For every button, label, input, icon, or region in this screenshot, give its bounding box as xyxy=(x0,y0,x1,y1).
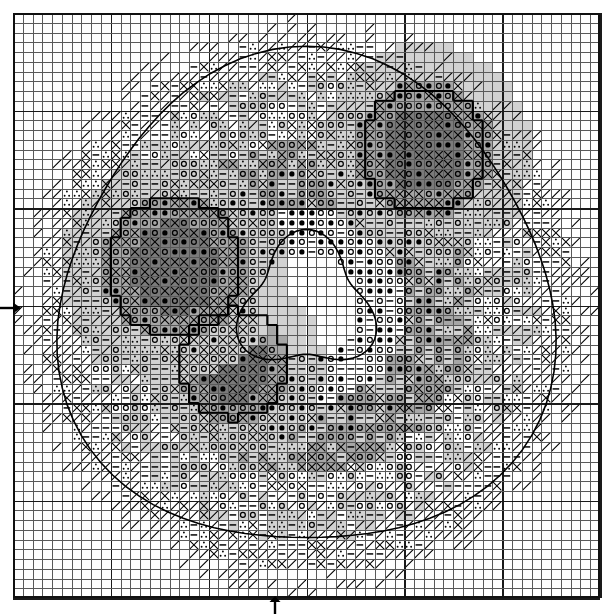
grid-line-horizontal xyxy=(13,237,600,238)
dash-symbol xyxy=(150,354,160,364)
pattern-cell xyxy=(150,335,160,345)
pattern-cell xyxy=(189,374,199,384)
open-circle-symbol xyxy=(424,286,434,296)
three-dot-symbol xyxy=(91,159,101,169)
pattern-cell xyxy=(385,189,395,199)
cross-symbol xyxy=(258,462,268,472)
pattern-cell xyxy=(365,228,375,238)
pattern-cell xyxy=(81,198,91,208)
filled-circle-symbol xyxy=(453,140,463,150)
slash-symbol xyxy=(228,559,238,569)
cross-symbol xyxy=(228,276,238,286)
pattern-cell xyxy=(541,179,551,189)
pattern-cell xyxy=(355,189,365,199)
dash-symbol xyxy=(150,384,160,394)
dash-symbol xyxy=(512,335,522,345)
pattern-cell xyxy=(130,413,140,423)
open-circle-symbol xyxy=(258,267,268,277)
pattern-cell xyxy=(434,364,444,374)
cross-symbol xyxy=(130,247,140,257)
pattern-cell xyxy=(199,393,209,403)
open-circle-symbol xyxy=(375,267,385,277)
three-dot-symbol xyxy=(277,442,287,452)
dash-symbol xyxy=(287,530,297,540)
pattern-cell xyxy=(238,374,248,384)
pattern-cell xyxy=(463,315,473,325)
pattern-cell xyxy=(512,452,522,462)
pattern-cell xyxy=(160,120,170,130)
filled-circle-symbol xyxy=(414,374,424,384)
pattern-cell xyxy=(512,384,522,394)
cross-symbol xyxy=(551,228,561,238)
pattern-cell xyxy=(140,364,150,374)
pattern-cell xyxy=(179,101,189,111)
pattern-cell xyxy=(52,345,62,355)
pattern-grid[interactable] xyxy=(13,13,600,598)
pattern-cell xyxy=(580,325,590,335)
slash-symbol xyxy=(170,530,180,540)
slash-symbol xyxy=(443,72,453,82)
pattern-cell xyxy=(33,228,43,238)
pattern-cell xyxy=(443,179,453,189)
open-circle-symbol xyxy=(355,198,365,208)
pattern-cell xyxy=(492,159,502,169)
dash-symbol xyxy=(101,423,111,433)
pattern-cell xyxy=(453,101,463,111)
pattern-cell xyxy=(150,169,160,179)
dash-symbol xyxy=(395,520,405,530)
dash-symbol xyxy=(72,393,82,403)
filled-circle-symbol xyxy=(140,315,150,325)
pattern-cell xyxy=(443,52,453,62)
dash-symbol xyxy=(443,510,453,520)
cross-symbol xyxy=(228,247,238,257)
pattern-cell xyxy=(258,471,268,481)
pattern-cell xyxy=(561,315,571,325)
pattern-cell xyxy=(23,345,33,355)
slash-symbol xyxy=(277,33,287,43)
pattern-cell xyxy=(316,130,326,140)
pattern-cell xyxy=(483,393,493,403)
grid-line-horizontal xyxy=(13,432,600,433)
pattern-cell xyxy=(238,364,248,374)
open-circle-symbol xyxy=(443,442,453,452)
pattern-cell xyxy=(434,374,444,384)
pattern-cell xyxy=(346,452,356,462)
open-circle-symbol xyxy=(258,130,268,140)
slash-symbol xyxy=(473,81,483,91)
grid-line-horizontal xyxy=(13,530,600,531)
cross-symbol xyxy=(170,286,180,296)
pattern-cell xyxy=(267,364,277,374)
slash-symbol xyxy=(199,130,209,140)
pattern-cell xyxy=(140,296,150,306)
pattern-cell xyxy=(140,140,150,150)
three-dot-symbol xyxy=(443,520,453,530)
pattern-cell xyxy=(170,540,180,550)
open-circle-symbol xyxy=(453,462,463,472)
pattern-cell xyxy=(248,101,258,111)
three-dot-symbol xyxy=(150,169,160,179)
dash-symbol xyxy=(473,364,483,374)
dash-symbol xyxy=(365,530,375,540)
open-circle-symbol xyxy=(258,442,268,452)
pattern-cell xyxy=(218,569,228,579)
open-circle-symbol xyxy=(463,189,473,199)
slash-symbol xyxy=(512,198,522,208)
open-circle-symbol xyxy=(473,296,483,306)
slash-symbol xyxy=(81,354,91,364)
pattern-cell xyxy=(72,413,82,423)
dash-symbol xyxy=(365,101,375,111)
open-circle-symbol xyxy=(170,296,180,306)
dash-symbol xyxy=(512,345,522,355)
dash-symbol xyxy=(375,549,385,559)
pattern-cell xyxy=(365,452,375,462)
slash-symbol xyxy=(492,198,502,208)
three-dot-symbol xyxy=(91,325,101,335)
pattern-cell xyxy=(336,247,346,257)
open-circle-symbol xyxy=(170,237,180,247)
pattern-cell xyxy=(424,62,434,72)
dash-symbol xyxy=(199,189,209,199)
pattern-cell xyxy=(336,393,346,403)
pattern-cell xyxy=(434,481,444,491)
pattern-cell xyxy=(316,432,326,442)
slash-symbol xyxy=(483,374,493,384)
